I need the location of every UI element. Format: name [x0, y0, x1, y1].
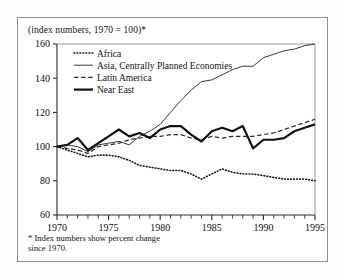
- y-tick-label: 100: [35, 141, 50, 152]
- x-tick-label: 1980: [150, 222, 170, 233]
- x-axis-tick-labels: 197019751980198519901995: [47, 222, 325, 233]
- figure-container: (index numbers, 1970 = 100)* AfricaAsia,…: [0, 0, 345, 279]
- series-line: [57, 124, 315, 150]
- legend-label: Asia, Centrally Planned Economies: [97, 61, 232, 71]
- y-tick-label: 140: [35, 73, 50, 84]
- series-line: [57, 119, 315, 153]
- x-tick-label: 1970: [47, 222, 67, 233]
- x-tick-label: 1975: [99, 222, 119, 233]
- chart-footnote: * Index numbers show percent change sinc…: [28, 233, 258, 253]
- legend-label: Near East: [97, 85, 135, 95]
- x-tick-label: 1995: [305, 222, 325, 233]
- x-tick-label: 1985: [202, 222, 222, 233]
- legend-label: Africa: [97, 49, 122, 59]
- y-tick-label: 160: [35, 38, 50, 49]
- y-tick-label: 60: [40, 209, 50, 220]
- chart-legend: AfricaAsia, Centrally Planned EconomiesL…: [74, 49, 232, 96]
- line-chart: AfricaAsia, Centrally Planned EconomiesL…: [17, 17, 328, 262]
- y-tick-label: 120: [35, 107, 50, 118]
- footnote-line-1: * Index numbers show percent change: [28, 233, 258, 243]
- y-axis-tick-labels: 6080100120140160: [35, 38, 50, 220]
- y-tick-label: 80: [40, 175, 50, 186]
- x-tick-label: 1990: [253, 222, 273, 233]
- series-line: [57, 147, 315, 181]
- plot-area-wrapper: AfricaAsia, Centrally Planned EconomiesL…: [17, 17, 328, 262]
- footnote-line-2: since 1970.: [28, 243, 258, 253]
- legend-label: Latin America: [97, 73, 152, 83]
